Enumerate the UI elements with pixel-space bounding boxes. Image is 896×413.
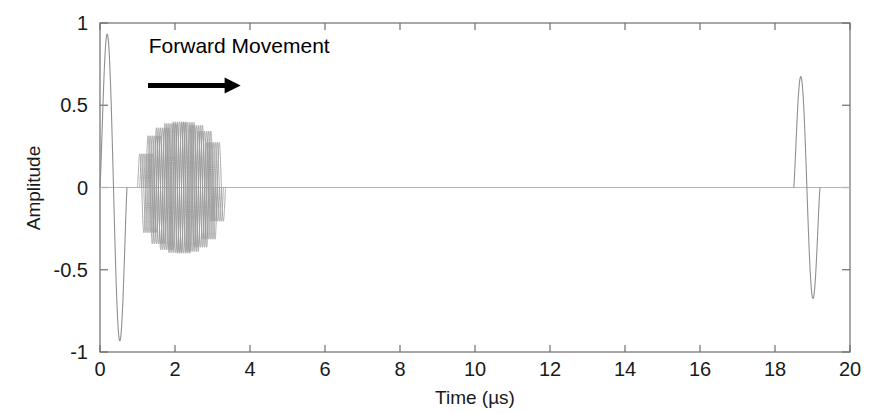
x-tick-label: 20 xyxy=(839,358,861,380)
waveform-chart: 02468101214161820 -1-0.500.51 Forward Mo… xyxy=(0,0,896,413)
y-tick-label: 0.5 xyxy=(60,94,88,116)
forward-movement-label: Forward Movement xyxy=(149,34,330,57)
y-axis-title: Amplitude xyxy=(23,146,44,231)
x-tick-label: 18 xyxy=(764,358,786,380)
x-tick-label: 2 xyxy=(169,358,180,380)
y-tick-label: 1 xyxy=(77,12,88,34)
y-tick-label: -1 xyxy=(70,341,88,363)
x-tick-label: 6 xyxy=(319,358,330,380)
y-tick-label: -0.5 xyxy=(54,259,88,281)
chart-figure: 02468101214161820 -1-0.500.51 Forward Mo… xyxy=(0,0,896,413)
x-tick-label: 10 xyxy=(464,358,486,380)
x-axis-title: Time (µs) xyxy=(435,387,515,408)
x-tick-label: 14 xyxy=(614,358,636,380)
x-tick-label: 12 xyxy=(539,358,561,380)
x-tick-label: 16 xyxy=(689,358,711,380)
chart-background xyxy=(0,0,896,413)
x-tick-label: 4 xyxy=(244,358,255,380)
y-tick-label: 0 xyxy=(77,177,88,199)
x-tick-label: 8 xyxy=(394,358,405,380)
x-tick-label: 0 xyxy=(94,358,105,380)
